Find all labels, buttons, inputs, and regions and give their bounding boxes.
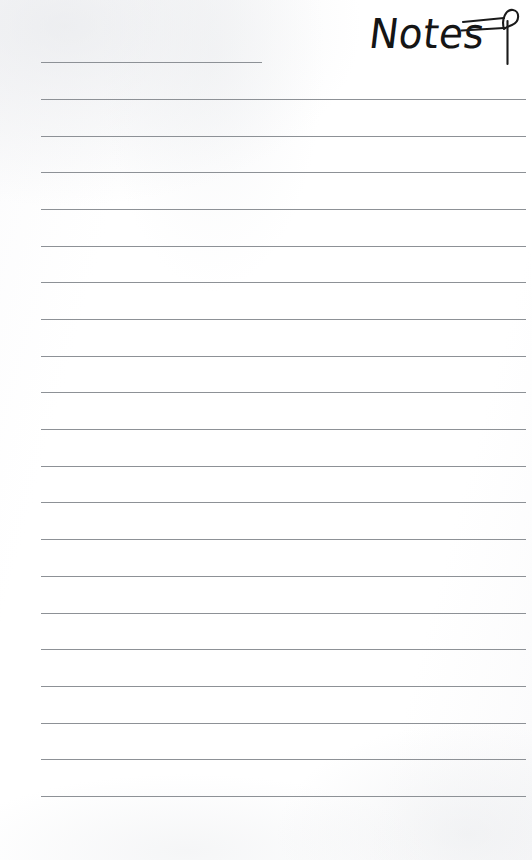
ruled-line[interactable]	[41, 429, 526, 430]
ruled-line[interactable]	[41, 172, 526, 173]
ruled-line[interactable]	[41, 282, 526, 283]
ruled-line[interactable]	[41, 356, 526, 357]
quill-pen-flourish-icon	[460, 6, 524, 68]
ruled-line[interactable]	[41, 319, 526, 320]
ruled-line[interactable]	[41, 136, 526, 137]
ruled-line[interactable]	[41, 246, 526, 247]
ruled-line[interactable]	[41, 686, 526, 687]
notes-page: Notes	[0, 0, 532, 860]
ruled-line[interactable]	[41, 613, 526, 614]
ruled-line[interactable]	[41, 62, 262, 63]
ruled-line[interactable]	[41, 466, 526, 467]
ruled-line[interactable]	[41, 723, 526, 724]
quill-pen-flourish-svg	[460, 6, 524, 68]
ruled-line[interactable]	[41, 796, 526, 797]
ruled-line[interactable]	[41, 209, 526, 210]
ruled-line[interactable]	[41, 759, 526, 760]
ruled-line[interactable]	[41, 392, 526, 393]
ruled-line[interactable]	[41, 576, 526, 577]
notes-header: Notes	[352, 4, 528, 68]
ruled-line[interactable]	[41, 649, 526, 650]
ruled-line[interactable]	[41, 502, 526, 503]
ruled-line[interactable]	[41, 539, 526, 540]
ruled-line[interactable]	[41, 99, 526, 100]
ruled-lines-group	[0, 0, 532, 860]
